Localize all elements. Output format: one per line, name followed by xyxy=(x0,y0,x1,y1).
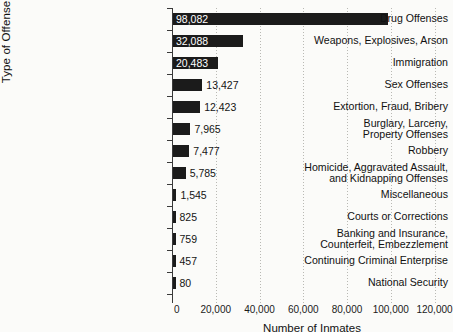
y-axis-tick xyxy=(167,30,172,31)
bar-value-label: 32,088 xyxy=(173,35,208,47)
category-label: Miscellaneous xyxy=(284,189,452,201)
category-label-line: Extortion, Fraud, Bribery xyxy=(284,101,448,113)
category-label-line: Drug Offenses xyxy=(284,13,448,25)
bar-value-label: 1,545 xyxy=(180,189,206,201)
bar-value-label: 20,483 xyxy=(173,57,208,69)
category-label-line: Robbery xyxy=(284,145,448,157)
bar-value-label: 7,477 xyxy=(193,145,219,157)
x-axis-tick-label: 80,000 xyxy=(332,304,363,315)
category-label-line: Property Offenses xyxy=(284,129,448,141)
bar-value-label: 80 xyxy=(180,277,192,289)
category-label-line: Weapons, Explosives, Arson xyxy=(284,35,448,47)
x-axis-tick-label: 60,000 xyxy=(288,304,319,315)
bar xyxy=(173,79,202,91)
bar xyxy=(173,145,189,157)
bar xyxy=(173,101,200,113)
x-axis-title: Number of Inmates xyxy=(172,322,452,332)
category-label: National Security xyxy=(284,277,452,289)
bar-value-label: 98,082 xyxy=(173,13,208,25)
category-label: Drug Offenses xyxy=(284,13,452,25)
category-label-line: Immigration xyxy=(284,57,448,69)
y-axis-tick xyxy=(167,250,172,251)
x-axis-tick-label: 0 xyxy=(174,304,180,315)
y-axis-tick xyxy=(167,118,172,119)
category-label-line: Counterfeit, Embezzlement xyxy=(284,239,448,251)
category-label: Immigration xyxy=(284,57,452,69)
bar-value-label: 7,965 xyxy=(194,123,220,135)
category-label-line: National Security xyxy=(284,277,448,289)
y-axis-tick xyxy=(167,96,172,97)
y-axis-tick xyxy=(167,52,172,53)
y-axis-tick xyxy=(167,294,172,295)
category-label: Sex Offenses xyxy=(284,79,452,91)
bar xyxy=(173,123,190,135)
category-label: Robbery xyxy=(284,145,452,157)
x-axis-tick-label: 20,000 xyxy=(200,304,231,315)
bar-value-label: 825 xyxy=(180,211,198,223)
bar xyxy=(173,189,176,201)
x-axis-tick-label: 120,000 xyxy=(416,304,452,315)
bar-value-label: 12,423 xyxy=(204,101,236,113)
bar xyxy=(173,255,176,267)
y-axis-tick xyxy=(167,206,172,207)
category-label-line: Continuing Criminal Enterprise xyxy=(284,255,448,267)
category-label: Extortion, Fraud, Bribery xyxy=(284,101,452,113)
y-axis-tick xyxy=(167,162,172,163)
bar-value-label: 759 xyxy=(180,233,198,245)
category-label: Continuing Criminal Enterprise xyxy=(284,255,452,267)
bar xyxy=(173,277,176,289)
bar-value-label: 5,785 xyxy=(190,167,216,179)
category-label-line: Miscellaneous xyxy=(284,189,448,201)
y-axis-title: Type of Offense xyxy=(0,0,16,112)
category-label-line: Sex Offenses xyxy=(284,79,448,91)
bar-value-label: 13,427 xyxy=(206,79,238,91)
x-axis-tick-label: 100,000 xyxy=(373,304,409,315)
y-axis-tick xyxy=(167,184,172,185)
x-axis-tick-label: 40,000 xyxy=(244,304,275,315)
y-axis-tick xyxy=(167,8,172,9)
category-label: Courts or Corrections xyxy=(284,211,452,223)
y-axis-tick xyxy=(167,74,172,75)
bar xyxy=(173,211,176,223)
bar xyxy=(173,233,176,245)
category-label: Banking and Insurance,Counterfeit, Embez… xyxy=(284,228,452,251)
bar xyxy=(173,167,186,179)
category-label: Homicide, Aggravated Assault,and Kidnapp… xyxy=(284,162,452,185)
y-axis-tick xyxy=(167,140,172,141)
category-label: Weapons, Explosives, Arson xyxy=(284,35,452,47)
bar-value-label: 457 xyxy=(180,255,198,267)
category-label-line: Courts or Corrections xyxy=(284,211,448,223)
y-axis-tick xyxy=(167,228,172,229)
category-label-line: and Kidnapping Offenses xyxy=(284,173,448,185)
y-axis-tick xyxy=(167,272,172,273)
category-label: Burglary, Larceny,Property Offenses xyxy=(284,118,452,141)
